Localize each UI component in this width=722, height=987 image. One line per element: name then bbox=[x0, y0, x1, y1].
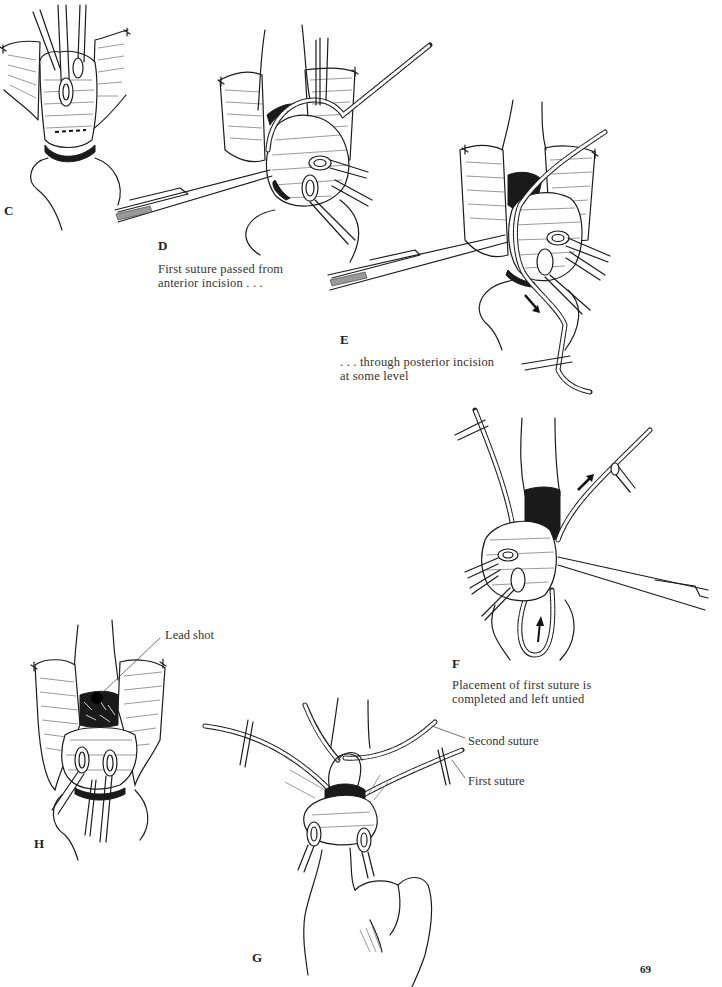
first-suture-callout: First suture bbox=[468, 774, 525, 789]
figure-f-label: F bbox=[452, 656, 460, 672]
needle-holder-icon bbox=[115, 170, 272, 222]
figure-d-caption: First suture passed from anterior incisi… bbox=[158, 262, 283, 290]
needle-holder-icon bbox=[558, 557, 708, 610]
figure-e-caption: . . . through posterior incision at some… bbox=[340, 355, 494, 383]
figure-g: Second suture First suture G bbox=[190, 690, 550, 987]
page-number: 69 bbox=[640, 963, 651, 975]
figure-h-label: H bbox=[34, 836, 44, 852]
second-suture-callout: Second suture bbox=[468, 734, 538, 749]
figure-f-illustration bbox=[440, 390, 722, 670]
lead-shot-callout: Lead shot bbox=[165, 628, 214, 643]
figure-e-label: E bbox=[340, 332, 349, 348]
figure-g-label: G bbox=[252, 950, 262, 966]
direction-arrow-icon bbox=[525, 295, 540, 313]
figure-e: E . . . through posterior incision at so… bbox=[320, 80, 722, 400]
figure-e-illustration bbox=[320, 80, 722, 400]
figure-d-label: D bbox=[158, 238, 167, 254]
figure-f: F Placement of first suture is completed… bbox=[440, 390, 722, 710]
direction-arrow-icon bbox=[536, 616, 544, 642]
figure-c-label: C bbox=[4, 203, 13, 219]
